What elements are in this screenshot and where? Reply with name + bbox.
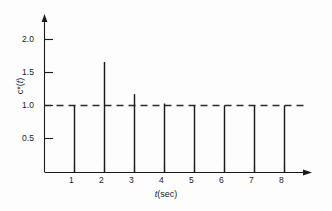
x-tick-label-8: 8 (279, 175, 284, 185)
y-axis-title: c*(t) (15, 78, 25, 95)
chart-figure: 2.0 1.5 1.0 0.5 1 2 3 4 5 6 7 8 c*(t) t(… (0, 0, 332, 211)
x-tick-label-1: 1 (69, 175, 74, 185)
x-axis-title-units: (sec) (157, 189, 177, 199)
y-tick-label-0-5: 0.5 (22, 133, 34, 143)
y-axis-title-suffix: ) (15, 78, 25, 81)
x-tick-label-2: 2 (99, 175, 104, 185)
x-tick-label-4: 4 (159, 175, 164, 185)
y-tick-label-2-0: 2.0 (22, 34, 34, 44)
x-axis-title: t(sec) (0, 189, 332, 199)
x-tick-label-7: 7 (249, 175, 254, 185)
x-tick-label-5: 5 (189, 175, 194, 185)
x-tick-label-6: 6 (219, 175, 224, 185)
y-axis-title-prefix: c*( (15, 83, 25, 94)
x-tick-label-3: 3 (129, 175, 134, 185)
y-axis-title-variable: t (15, 81, 25, 84)
y-axis-title-wrap: c*(t) (12, 60, 28, 112)
